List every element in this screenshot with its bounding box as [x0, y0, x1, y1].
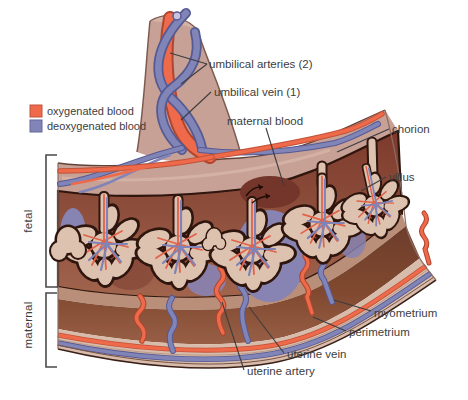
myometrium-label: myometrium [374, 307, 437, 319]
umbilical-vein-label: umbilical vein (1) [214, 86, 300, 98]
umbilical-arteries-label: umbilical arteries (2) [209, 58, 313, 70]
fetal-label: fetal [22, 209, 34, 232]
villus-label: villus [389, 171, 415, 183]
perimetrium-label: perimetrium [349, 326, 410, 338]
uterine-artery-label: uterine artery [247, 365, 315, 377]
maternal-bracket [46, 293, 57, 367]
maternal-label: maternal [22, 301, 34, 348]
placenta-figure: oxygenated blood deoxygenated blood feta… [0, 0, 468, 400]
legend: oxygenated blood deoxygenated blood [30, 105, 146, 132]
legend-label-oxygenated: oxygenated blood [47, 105, 134, 117]
placenta-diagram: oxygenated blood deoxygenated blood feta… [0, 0, 468, 400]
fetal-bracket [46, 155, 57, 287]
uterine-vein-label: uterine vein [287, 348, 346, 360]
legend-swatch-oxygenated [30, 105, 42, 117]
legend-label-deoxygenated: deoxygenated blood [47, 120, 146, 132]
chorion-label: chorion [392, 123, 430, 135]
legend-swatch-deoxygenated [30, 120, 42, 132]
maternal-blood-label: maternal blood [227, 115, 303, 127]
